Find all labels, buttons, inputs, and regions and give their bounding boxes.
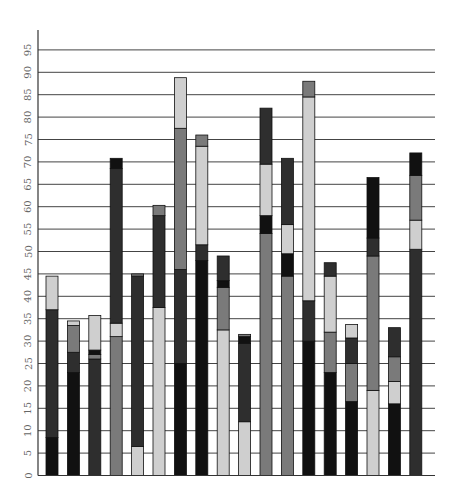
y-tick-label: 55 <box>23 223 34 236</box>
bar-segment <box>153 205 165 215</box>
bar-segment <box>388 404 400 476</box>
stacked-bar-chart: 05101520253035404550556065707580859095 <box>0 0 451 504</box>
y-tick-label: 85 <box>23 88 34 101</box>
bar-segment <box>410 249 422 475</box>
bar <box>346 325 358 476</box>
bar-segment <box>303 341 315 475</box>
bar-segment <box>67 321 79 325</box>
bar <box>46 276 58 475</box>
bar-segment <box>388 328 400 357</box>
bar-segment <box>89 316 101 350</box>
bar <box>153 205 165 475</box>
bar-segment <box>174 78 186 129</box>
y-tick-label: 95 <box>23 44 34 57</box>
bar-segment <box>324 332 336 372</box>
bar-segment <box>324 263 336 276</box>
bar <box>132 274 144 476</box>
bar-segment <box>110 337 122 476</box>
bar <box>110 158 122 475</box>
bar-segment <box>367 238 379 256</box>
bar-segment <box>217 330 229 476</box>
bar <box>89 316 101 476</box>
bar-segment <box>67 352 79 372</box>
bar <box>260 108 272 475</box>
bar-segment <box>89 355 101 359</box>
bar-segment <box>281 254 293 276</box>
bar <box>67 321 79 476</box>
y-tick-label: 0 <box>23 472 34 478</box>
bar-segment <box>303 97 315 301</box>
bar-segment <box>174 128 186 269</box>
bar-segment <box>196 135 208 146</box>
bar-segment <box>324 372 336 475</box>
bar-segment <box>367 256 379 390</box>
bar-segment <box>110 169 122 324</box>
bar-segment <box>410 220 422 249</box>
bar-series <box>46 78 422 476</box>
y-tick-label: 45 <box>23 268 34 281</box>
bar <box>303 81 315 475</box>
y-tick-label: 35 <box>23 312 34 325</box>
bar-segment <box>346 325 358 338</box>
bar-segment <box>217 287 229 330</box>
bar-segment <box>239 337 251 344</box>
bar-segment <box>89 350 101 354</box>
y-tick-label: 75 <box>23 133 34 146</box>
bar-segment <box>260 108 272 164</box>
bar-segment <box>410 153 422 175</box>
bar-segment <box>46 437 58 475</box>
bar-segment <box>196 260 208 475</box>
bar-segment <box>217 281 229 288</box>
bar-segment <box>239 422 251 476</box>
y-tick-label: 25 <box>23 357 34 370</box>
y-tick-label: 90 <box>23 66 34 79</box>
bar <box>281 158 293 475</box>
bar-segment <box>260 234 272 476</box>
bar-segment <box>110 323 122 336</box>
bar-segment <box>67 325 79 352</box>
bar-segment <box>110 158 122 168</box>
bar <box>410 153 422 476</box>
bar-segment <box>46 310 58 438</box>
bar-segment <box>239 343 251 421</box>
bar-segment <box>46 276 58 310</box>
bar-segment <box>67 372 79 475</box>
bar-segment <box>260 164 272 216</box>
bar-segment <box>132 446 144 475</box>
y-tick-label: 50 <box>23 245 34 258</box>
bar-segment <box>410 175 422 220</box>
bar <box>239 334 251 475</box>
bar-segment <box>174 269 186 363</box>
y-tick-label: 5 <box>23 450 34 456</box>
y-tick-label: 15 <box>23 402 34 415</box>
bar-segment <box>303 301 315 341</box>
y-tick-label: 30 <box>23 335 34 348</box>
bar-segment <box>153 216 165 308</box>
bar <box>174 78 186 476</box>
bar <box>324 263 336 476</box>
y-tick-label: 20 <box>23 380 34 393</box>
bar-segment <box>174 364 186 476</box>
y-tick-label: 70 <box>23 156 34 169</box>
bar-segment <box>303 81 315 97</box>
bar <box>196 135 208 475</box>
bar-segment <box>260 216 272 234</box>
y-tick-label: 10 <box>23 424 34 437</box>
bar-segment <box>324 276 336 332</box>
y-tick-label: 65 <box>23 178 34 191</box>
bar-segment <box>281 158 293 224</box>
y-tick-label: 40 <box>23 290 34 303</box>
bar-segment <box>367 178 379 238</box>
bar <box>217 256 229 476</box>
bar-segment <box>388 357 400 382</box>
y-tick-label: 60 <box>23 200 34 213</box>
bar-segment <box>346 402 358 476</box>
bar-segment <box>89 359 101 475</box>
bar-segment <box>281 225 293 254</box>
bar <box>388 328 400 476</box>
bar-segment <box>196 146 208 245</box>
bar-segment <box>388 381 400 403</box>
bar-segment <box>132 274 144 276</box>
y-tick-label: 80 <box>23 111 34 124</box>
bar-segment <box>217 256 229 281</box>
